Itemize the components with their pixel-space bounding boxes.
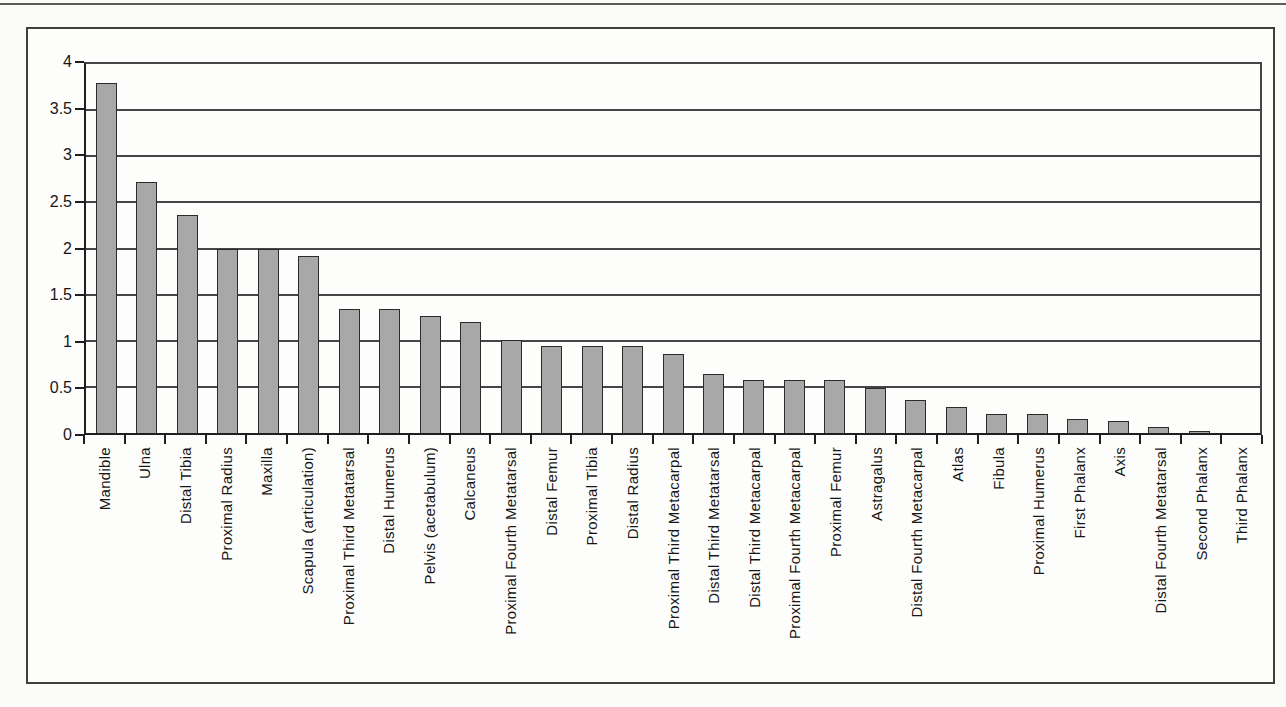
bar-slot — [1220, 64, 1260, 433]
y-tick-2.5 — [75, 201, 84, 203]
bar-slot — [288, 64, 328, 433]
y-tick-label: 4 — [30, 53, 72, 71]
bar-maxilla — [258, 249, 279, 434]
x-label-slot: Proximal Humerus — [1018, 447, 1059, 672]
x-category-label: Calcaneus — [461, 447, 478, 521]
bar-calcaneus — [460, 322, 481, 433]
y-tick-label: 2 — [30, 240, 72, 258]
bar-scapula-articulation- — [298, 256, 319, 433]
bar-proximal-third-metatarsal — [339, 309, 360, 433]
y-tick-label: 1.5 — [30, 286, 72, 304]
x-label-slot: First Phalanx — [1059, 447, 1100, 672]
bar-slot — [450, 64, 490, 433]
bar-proximal-third-metacarpal — [663, 354, 684, 433]
x-tick — [408, 435, 410, 444]
bar-slot — [653, 64, 693, 433]
x-label-slot: Pelvis (acetabulum) — [409, 447, 450, 672]
x-tick — [1261, 435, 1263, 444]
bar-slot — [774, 64, 814, 433]
x-label-slot: Fibula — [978, 447, 1019, 672]
x-label-slot: Proximal Radius — [206, 447, 247, 672]
bar-slot — [936, 64, 976, 433]
bar-proximal-fourth-metatarsal — [501, 340, 522, 433]
y-tick-3 — [75, 154, 84, 156]
y-axis-ticks — [75, 62, 84, 435]
y-tick-0.5 — [75, 387, 84, 389]
x-tick — [692, 435, 694, 444]
x-label-slot: Proximal Third Metatarsal — [328, 447, 369, 672]
x-category-label: Distal Femur — [543, 447, 560, 536]
x-label-slot: Distal Third Metatarsal — [693, 447, 734, 672]
x-axis-labels: MandibleUlnaDistal TibiaProximal RadiusM… — [84, 447, 1262, 672]
x-label-slot: Mandible — [84, 447, 125, 672]
x-tick — [1099, 435, 1101, 444]
x-category-label: Distal Fourth Metatarsal — [1152, 447, 1169, 613]
x-tick — [367, 435, 369, 444]
bar-slot — [612, 64, 652, 433]
y-axis-labels: 00.511.522.533.54 — [30, 62, 72, 435]
y-tick-label: 0.5 — [30, 379, 72, 397]
bar-slot — [207, 64, 247, 433]
bar-ulna — [136, 182, 157, 433]
bar-first-phalanx — [1067, 419, 1088, 433]
bar-slot — [410, 64, 450, 433]
x-tick — [1058, 435, 1060, 444]
y-tick-1.5 — [75, 294, 84, 296]
bar-slot — [734, 64, 774, 433]
bar-distal-femur — [541, 346, 562, 433]
y-tick-4 — [75, 61, 84, 63]
bar-proximal-femur — [824, 380, 845, 433]
bar-distal-radius — [622, 346, 643, 433]
x-category-label: Third Phalanx — [1233, 447, 1250, 543]
bar-slot — [1098, 64, 1138, 433]
x-tick — [245, 435, 247, 444]
x-label-slot: Scapula (articulation) — [287, 447, 328, 672]
y-tick-3.5 — [75, 108, 84, 110]
x-category-label: Proximal Tibia — [583, 447, 600, 545]
x-label-slot: Astragalus — [856, 447, 897, 672]
bar-astragalus — [865, 388, 886, 433]
bar-slot — [693, 64, 733, 433]
x-category-label: Distal Third Metacarpal — [746, 447, 763, 608]
x-tick — [1220, 435, 1222, 444]
x-label-slot: Distal Fourth Metatarsal — [1140, 447, 1181, 672]
bar-pelvis-acetabulum- — [420, 316, 441, 433]
x-tick — [327, 435, 329, 444]
x-tick — [124, 435, 126, 444]
y-tick-label: 3.5 — [30, 100, 72, 118]
x-label-slot: Proximal Third Metacarpal — [653, 447, 694, 672]
bar-distal-humerus — [379, 309, 400, 433]
bar-second-phalanx — [1189, 431, 1210, 433]
x-axis-ticks — [84, 435, 1262, 444]
x-tick — [652, 435, 654, 444]
bars-layer — [86, 64, 1260, 433]
x-label-slot: Proximal Fourth Metacarpal — [775, 447, 816, 672]
bar-distal-fourth-metacarpal — [905, 400, 926, 433]
x-category-label: Distal Humerus — [380, 447, 397, 554]
x-tick — [733, 435, 735, 444]
bar-axis — [1108, 421, 1129, 433]
x-label-slot: Proximal Femur — [815, 447, 856, 672]
x-tick — [205, 435, 207, 444]
x-category-label: Ulna — [136, 447, 153, 479]
x-category-label: Scapula (articulation) — [299, 447, 316, 595]
x-tick — [530, 435, 532, 444]
bar-slot — [977, 64, 1017, 433]
bar-slot — [126, 64, 166, 433]
x-label-slot: Ulna — [125, 447, 166, 672]
bar-distal-fourth-metatarsal — [1148, 427, 1169, 433]
x-category-label: First Phalanx — [1071, 447, 1088, 538]
bar-proximal-radius — [217, 249, 238, 434]
y-tick-label: 3 — [30, 146, 72, 164]
bar-slot — [167, 64, 207, 433]
bar-atlas — [946, 407, 967, 433]
bar-slot — [1058, 64, 1098, 433]
x-label-slot: Axis — [1100, 447, 1141, 672]
x-label-slot: Distal Femur — [531, 447, 572, 672]
x-tick — [164, 435, 166, 444]
bar-slot — [531, 64, 571, 433]
x-category-label: Proximal Fourth Metacarpal — [786, 447, 803, 639]
bar-slot — [329, 64, 369, 433]
x-label-slot: Third Phalanx — [1222, 447, 1263, 672]
x-tick — [489, 435, 491, 444]
